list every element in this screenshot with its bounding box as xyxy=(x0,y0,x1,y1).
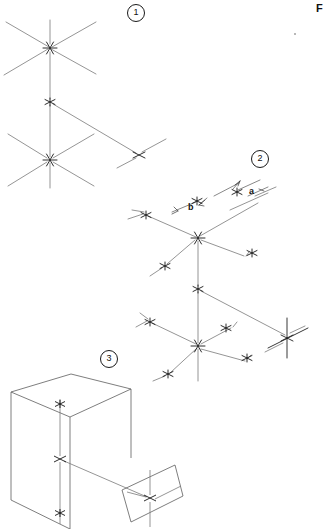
d2-strut-mid-right xyxy=(201,291,285,335)
d1-junction-top-arms xyxy=(4,20,96,99)
page-label-mark: F xyxy=(316,2,323,14)
d3-box-top-face xyxy=(11,374,131,417)
d1-node-glyphs xyxy=(43,42,145,166)
callout-number-1: 1 xyxy=(127,4,145,22)
dimension-label-b: b xyxy=(188,202,194,212)
d2-left-arm-upper xyxy=(150,240,195,276)
dimension-label-a: a xyxy=(249,186,254,196)
d2-right-arm-upper xyxy=(201,240,249,256)
d1-strut-mid-right xyxy=(50,104,136,157)
d3-node-glyphs xyxy=(54,400,156,517)
callout-number-2: 2 xyxy=(251,150,269,168)
d3-box-bottom-edge xyxy=(11,500,70,529)
figure-root: 1 2 3 a b F xyxy=(0,0,325,529)
d3-strut-to-plane xyxy=(64,461,147,497)
d2-upper-right-branch xyxy=(200,187,276,236)
figure-canvas xyxy=(0,0,325,529)
scan-speck xyxy=(294,33,296,35)
callout-number-3: 3 xyxy=(100,350,118,368)
diagram-3 xyxy=(11,374,183,529)
d2-dimension-ticks xyxy=(172,180,268,212)
diagram-1 xyxy=(4,20,166,188)
d3-plane-axes xyxy=(127,470,181,527)
diagram-2 xyxy=(128,180,308,381)
d3-box-vertical-edges xyxy=(11,389,131,529)
d2-upper-left-branch xyxy=(128,210,196,237)
d2-node-glyphs xyxy=(141,188,308,378)
